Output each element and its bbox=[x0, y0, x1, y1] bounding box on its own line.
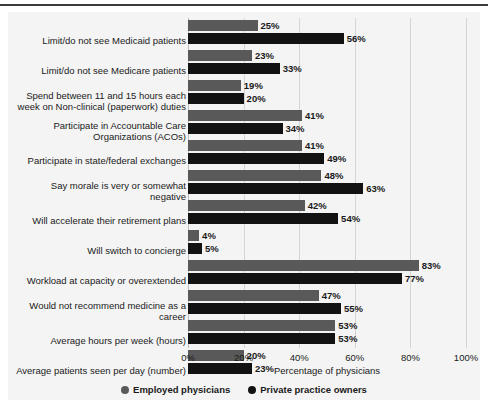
bar-private bbox=[188, 213, 338, 224]
bar-value-label: 54% bbox=[341, 213, 360, 224]
category-label: Limit/do not see Medicare patients bbox=[14, 65, 186, 77]
bar-private bbox=[188, 273, 402, 284]
bar-employed bbox=[188, 110, 302, 121]
category-label-line: Workload at capacity or overextended bbox=[14, 275, 186, 287]
bar-private bbox=[188, 183, 363, 194]
legend-item[interactable]: Private practice owners bbox=[248, 384, 367, 395]
x-axis-title: Percentage of physicians bbox=[188, 365, 466, 376]
category-label: Will switch to concierge bbox=[14, 245, 186, 257]
category-label-line: Spend between 11 and 15 hours each bbox=[14, 90, 186, 102]
top-divider-rule bbox=[0, 4, 488, 6]
category-label: Limit/do not see Medicaid patients bbox=[14, 35, 186, 47]
bar-value-label: 53% bbox=[338, 320, 357, 331]
bar-group: 42%54% bbox=[188, 198, 474, 228]
bar-rows: 25%56%23%33%19%20%41%34%41%49%48%63%42%5… bbox=[188, 18, 474, 348]
x-tick-80: 80% bbox=[401, 352, 420, 363]
plot-area: 25%56%23%33%19%20%41%34%41%49%48%63%42%5… bbox=[188, 18, 474, 348]
bar-group: 47%55% bbox=[188, 288, 474, 318]
bar-group: 48%63% bbox=[188, 168, 474, 198]
bar-private bbox=[188, 243, 202, 254]
bar-value-label: 55% bbox=[344, 303, 363, 314]
category-label-line: Participate in state/federal exchanges bbox=[14, 155, 186, 167]
bar-value-label: 20% bbox=[247, 93, 266, 104]
category-label-line: negative bbox=[14, 191, 186, 203]
bar-employed bbox=[188, 230, 199, 241]
legend-marker-circle-icon bbox=[121, 386, 129, 394]
bar-value-label: 19% bbox=[244, 80, 263, 91]
category-label-line: Organizations (ACOs) bbox=[14, 131, 186, 143]
bar-employed bbox=[188, 80, 241, 91]
bar-employed bbox=[188, 260, 419, 271]
bar-group: 83%77% bbox=[188, 258, 474, 288]
bar-private bbox=[188, 93, 244, 104]
category-label-line: Would not recommend medicine as a bbox=[14, 300, 186, 312]
bar-group: 41%34% bbox=[188, 108, 474, 138]
bar-private bbox=[188, 33, 344, 44]
category-label: Spend between 11 and 15 hours eachweek o… bbox=[14, 90, 186, 113]
category-label-line: career bbox=[14, 311, 186, 323]
category-label: Will accelerate their retirement plans bbox=[14, 215, 186, 227]
category-label-line: Average patients seen per day (number) bbox=[14, 365, 186, 377]
category-label-line: Say morale is very or somewhat bbox=[14, 180, 186, 192]
bar-group: 19%20% bbox=[188, 78, 474, 108]
bar-value-label: 25% bbox=[261, 20, 280, 31]
bar-employed bbox=[188, 50, 252, 61]
chart-screenshot: Limit/do not see Medicaid patientsLimit/… bbox=[0, 0, 488, 411]
bar-value-label: 23% bbox=[255, 50, 274, 61]
bar-employed bbox=[188, 320, 335, 331]
bar-group: 4%5% bbox=[188, 228, 474, 258]
category-label-line: Will switch to concierge bbox=[14, 245, 186, 257]
bar-employed bbox=[188, 290, 319, 301]
category-label: Would not recommend medicine as acareer bbox=[14, 300, 186, 323]
category-label: Average patients seen per day (number) bbox=[14, 365, 186, 377]
category-label: Workload at capacity or overextended bbox=[14, 275, 186, 287]
bar-private bbox=[188, 303, 341, 314]
category-label: Average hours per week (hours) bbox=[14, 335, 186, 347]
bar-value-label: 48% bbox=[324, 170, 343, 181]
bar-group: 23%33% bbox=[188, 48, 474, 78]
chart-legend: Employed physiciansPrivate practice owne… bbox=[8, 384, 480, 395]
bar-value-label: 53% bbox=[338, 333, 357, 344]
bar-private bbox=[188, 333, 335, 344]
bar-value-label: 41% bbox=[305, 110, 324, 121]
category-label: Say morale is very or somewhatnegative bbox=[14, 180, 186, 203]
legend-label: Private practice owners bbox=[260, 384, 367, 395]
category-label-line: Will accelerate their retirement plans bbox=[14, 215, 186, 227]
bar-employed bbox=[188, 140, 302, 151]
x-tick-20: 20% bbox=[234, 352, 253, 363]
bar-value-label: 83% bbox=[422, 260, 441, 271]
x-tick-0: 0% bbox=[181, 352, 195, 363]
bar-employed bbox=[188, 200, 305, 211]
bar-value-label: 49% bbox=[327, 153, 346, 164]
category-label-line: Participate in Accountable Care bbox=[14, 120, 186, 132]
category-label-line: Limit/do not see Medicare patients bbox=[14, 65, 186, 77]
bar-value-label: 77% bbox=[405, 273, 424, 284]
x-axis-tick-labels: 0%20%40%60%80%100% bbox=[188, 352, 474, 366]
bar-value-label: 41% bbox=[305, 140, 324, 151]
bar-value-label: 63% bbox=[366, 183, 385, 194]
category-label: Participate in Accountable CareOrganizat… bbox=[14, 120, 186, 143]
legend-marker-circle-icon bbox=[248, 386, 256, 394]
legend-label: Employed physicians bbox=[133, 384, 230, 395]
x-tick-100: 100% bbox=[454, 352, 478, 363]
bar-value-label: 33% bbox=[283, 63, 302, 74]
bar-value-label: 42% bbox=[308, 200, 327, 211]
bar-employed bbox=[188, 170, 321, 181]
category-label: Participate in state/federal exchanges bbox=[14, 155, 186, 167]
bar-private bbox=[188, 123, 283, 134]
bar-value-label: 5% bbox=[205, 243, 219, 254]
x-tick-60: 60% bbox=[345, 352, 364, 363]
x-tick-40: 40% bbox=[290, 352, 309, 363]
bar-private bbox=[188, 63, 280, 74]
bar-value-label: 47% bbox=[322, 290, 341, 301]
chart-panel: Limit/do not see Medicaid patientsLimit/… bbox=[8, 12, 480, 400]
category-label-line: Average hours per week (hours) bbox=[14, 335, 186, 347]
bar-value-label: 34% bbox=[286, 123, 305, 134]
bar-employed bbox=[188, 20, 258, 31]
bar-group: 41%49% bbox=[188, 138, 474, 168]
bar-group: 53%53% bbox=[188, 318, 474, 348]
category-label-line: Limit/do not see Medicaid patients bbox=[14, 35, 186, 47]
category-label-line: week on Non-clinical (paperwork) duties bbox=[14, 101, 186, 113]
bar-group: 25%56% bbox=[188, 18, 474, 48]
legend-item[interactable]: Employed physicians bbox=[121, 384, 230, 395]
